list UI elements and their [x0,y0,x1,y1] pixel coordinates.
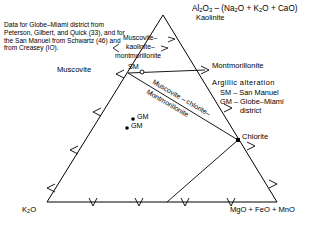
point-marker-gm-2 [125,126,129,130]
figure-caption: Data for Globe–Miami district from Peter… [4,21,134,52]
data-label-gm-2: GM [131,122,143,130]
vertex-label-mgo-feo-mno: MgO + FeO + MnO [230,206,295,215]
field-label-muscovite-line: Muscovite– [123,34,157,42]
field-label-kaolinite-line: kaolinite– [126,43,155,51]
tie-line-muscovite-montmorillonite [128,70,205,73]
vertex-label-k2o: K2O [22,206,36,215]
label-muscovite: Muscovite [57,66,91,75]
data-label-sm: SM [128,63,139,71]
point-marker-sm [140,70,144,74]
label-montmorillonite: Montmorillonite [212,62,264,71]
label-chlorite: Chlorite [242,133,268,142]
point-marker-chlorite [236,138,240,142]
legend-entry-gm-line2: district [240,107,261,116]
legend-title: Argillic alteration [212,79,275,88]
tick-marks-left-edge [47,70,124,192]
tie-line-chlorite-k2o [167,140,238,202]
apex-label-kaolinite: Kaolinite [196,14,224,23]
field-label-montmorillonite-line: montmorillonite [115,52,161,60]
